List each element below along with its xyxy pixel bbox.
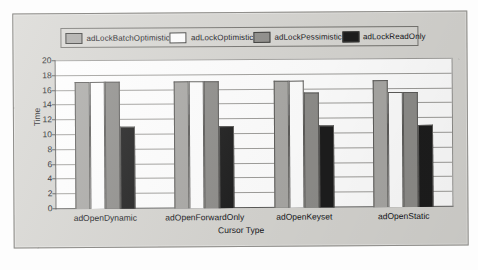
legend-swatch-icon: [342, 31, 359, 42]
x-axis-tick-label: adOpenForwardOnly: [155, 212, 255, 223]
legend-item-label: adLockPessimistic: [274, 32, 342, 41]
legend-item-label: adLockOptimistic: [191, 32, 254, 41]
y-axis-tick-label: 14: [42, 100, 52, 110]
bar-group: [55, 60, 155, 210]
y-axis-tick-label: 18: [42, 70, 52, 80]
bar[interactable]: [288, 81, 304, 208]
x-axis-tick-label: adOpenDynamic: [56, 213, 156, 224]
legend-item[interactable]: adLockPessimistic: [253, 31, 342, 43]
bar[interactable]: [104, 82, 120, 209]
y-axis-tick-label: 4: [48, 174, 53, 184]
y-axis-tick-label: 10: [43, 129, 53, 139]
bar[interactable]: [120, 127, 136, 209]
y-axis-tick-label: 6: [47, 159, 52, 169]
legend-swatch-icon: [65, 32, 82, 43]
y-axis-tick-label: 2: [48, 188, 53, 198]
legend-swatch-icon: [170, 32, 187, 43]
chart-screenshot: adLockBatchOptimisticadLockOptimisticadL…: [0, 0, 478, 270]
bar[interactable]: [403, 91, 419, 207]
bar[interactable]: [219, 126, 235, 208]
bar-groups: [55, 58, 454, 209]
legend-item-label: adLockBatchOptimistic: [86, 33, 170, 43]
bar-group: [254, 58, 354, 208]
bar[interactable]: [418, 125, 434, 207]
x-axis-title: Cursor Type: [15, 224, 468, 237]
y-axis-tick-label: 16: [42, 85, 52, 95]
bar[interactable]: [89, 82, 105, 209]
bar-group: [154, 59, 254, 209]
y-axis-tick-label: 0: [48, 203, 53, 213]
y-axis-tick-label: 8: [47, 144, 52, 154]
y-axis-tick-label: 12: [42, 114, 52, 124]
x-axis-tick-label: adOpenStatic: [354, 211, 454, 222]
chart-legend: adLockBatchOptimisticadLockOptimisticadL…: [60, 26, 418, 48]
legend-item-label: adLockReadOnly: [363, 31, 426, 40]
x-axis-tick-label: adOpenKeyset: [255, 211, 355, 222]
legend-item[interactable]: adLockBatchOptimistic: [65, 32, 170, 44]
bar[interactable]: [174, 82, 190, 209]
y-axis-tick-label: 20: [42, 55, 52, 65]
plot-area-wrapper: 20181614121086420 adOpenDynamicadOpenFor…: [55, 58, 454, 209]
bar[interactable]: [273, 81, 289, 208]
x-axis-tick-labels: adOpenDynamicadOpenForwardOnlyadOpenKeys…: [56, 211, 454, 223]
bar[interactable]: [304, 92, 320, 208]
bar[interactable]: [189, 82, 205, 209]
bar[interactable]: [319, 125, 335, 207]
legend-item[interactable]: adLockReadOnly: [342, 30, 426, 42]
bar[interactable]: [388, 92, 404, 208]
chart-panel: adLockBatchOptimisticadLockOptimisticadL…: [12, 11, 468, 249]
bar-group: [353, 58, 453, 208]
bar[interactable]: [373, 80, 389, 207]
bar[interactable]: [74, 82, 90, 209]
legend-swatch-icon: [253, 31, 270, 42]
legend-item[interactable]: adLockOptimistic: [170, 31, 254, 43]
bar[interactable]: [204, 81, 220, 208]
y-axis-title: Time: [32, 108, 42, 127]
